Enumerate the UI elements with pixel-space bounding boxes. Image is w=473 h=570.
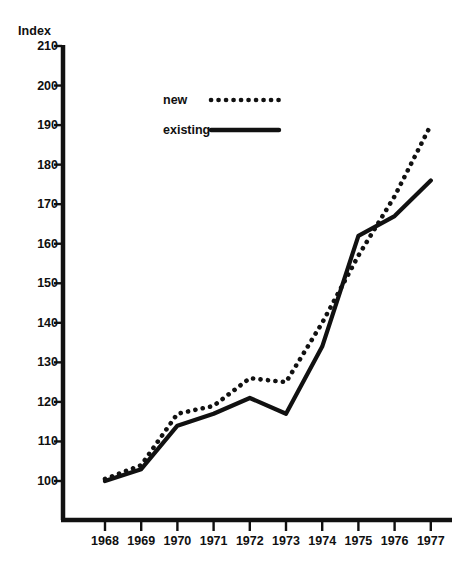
legend-label-existing: existing (163, 123, 210, 137)
legend-label-new: new (163, 93, 187, 107)
line-chart: Index 1001101201301401501601701801902002… (0, 0, 473, 570)
legend: newexisting (0, 0, 473, 570)
